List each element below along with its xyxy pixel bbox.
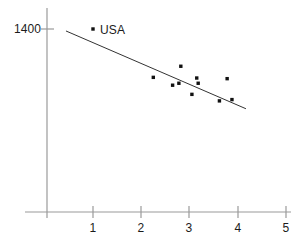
scatter-chart: 1400 1 2 3 4 5 USA xyxy=(0,0,301,244)
data-point xyxy=(152,76,155,79)
data-point xyxy=(179,65,182,68)
data-point xyxy=(218,99,221,102)
x-tick-label-1: 1 xyxy=(90,221,97,235)
data-point xyxy=(190,93,193,96)
data-point xyxy=(171,84,174,87)
data-point xyxy=(196,82,199,85)
data-point-group xyxy=(91,27,233,102)
trend-line xyxy=(66,31,246,109)
x-tick-label-5: 5 xyxy=(283,221,290,235)
x-tick-label-3: 3 xyxy=(186,221,193,235)
x-tick-label-2: 2 xyxy=(138,221,145,235)
plot-area xyxy=(0,0,301,244)
y-tick-label-1400: 1400 xyxy=(14,22,41,36)
data-point xyxy=(91,27,94,30)
data-point xyxy=(177,82,180,85)
data-point xyxy=(195,76,198,79)
data-point xyxy=(230,98,233,101)
data-point-label-usa: USA xyxy=(100,23,125,37)
data-point xyxy=(225,77,228,80)
x-tick-label-4: 4 xyxy=(235,221,242,235)
